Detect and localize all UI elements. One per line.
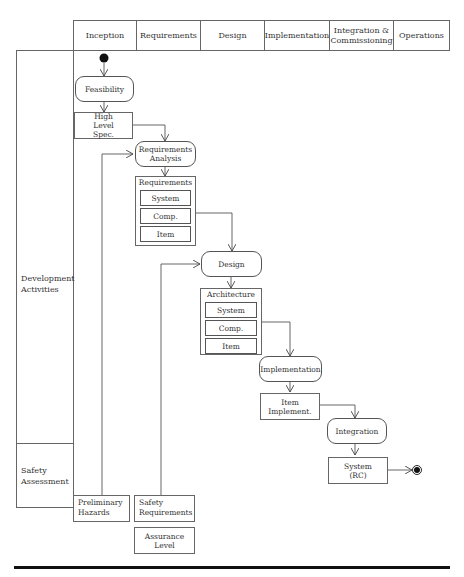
phase-label: Inception	[86, 31, 124, 41]
phase-label: Implementation	[265, 31, 329, 41]
activity-label: Implementation	[260, 365, 320, 374]
safety-label: Safety Requirements	[139, 498, 192, 517]
phase-operations: Operations	[393, 20, 450, 51]
artifact-requirements-group: Requirements System Comp. Item	[135, 176, 196, 246]
req-system: System	[140, 190, 191, 206]
phase-inception: Inception	[73, 20, 137, 51]
activity-label: Feasibility	[85, 85, 124, 94]
lane-label-safety: Safety Assessment	[17, 465, 73, 487]
artifact-item-implement: Item Implement.	[260, 393, 320, 420]
artifact-system-rc: System (RC)	[328, 457, 388, 484]
artifact-label: High Level Spec.	[83, 112, 124, 139]
arch-system: System	[205, 302, 257, 318]
artifact-architecture-group: Architecture System Comp. Item	[200, 288, 262, 355]
start-node	[100, 54, 109, 63]
safety-preliminary-hazards: Preliminary Hazards	[73, 495, 130, 522]
arch-comp: Comp.	[205, 320, 257, 336]
safety-requirements: Safety Requirements	[134, 495, 195, 522]
phase-design: Design	[200, 20, 265, 51]
phase-label: Design	[218, 31, 246, 41]
activity-design: Design	[201, 251, 262, 277]
activity-label: Requirements Analysis	[139, 145, 192, 163]
lane-development: Development Activities	[16, 50, 74, 443]
req-item: Item	[140, 226, 191, 242]
phase-label: Integration & Commissioning	[330, 26, 392, 46]
activity-requirements-analysis: Requirements Analysis	[135, 141, 196, 167]
arch-item: Item	[205, 338, 257, 354]
phase-label: Requirements	[140, 31, 197, 41]
safety-label: Preliminary Hazards	[78, 498, 123, 517]
safety-assurance-level: Assurance Level	[134, 527, 195, 554]
phase-requirements: Requirements	[136, 20, 201, 51]
artifact-label: System (RC)	[343, 462, 373, 480]
lane-label-development: Development Activities	[17, 273, 73, 295]
phase-implementation: Implementation	[264, 20, 330, 51]
activity-label: Design	[218, 260, 244, 269]
artifact-high-level-spec: High Level Spec.	[74, 112, 133, 139]
req-comp: Comp.	[140, 208, 191, 224]
phase-label: Operations	[399, 31, 444, 41]
phase-integration: Integration & Commissioning	[329, 20, 394, 51]
end-node	[414, 467, 420, 473]
group-title: Requirements	[136, 178, 195, 188]
artifact-label: Item Implement.	[267, 398, 313, 416]
group-title: Architecture	[201, 290, 261, 300]
activity-implementation: Implementation	[259, 356, 322, 382]
lane-safety: Safety Assessment	[16, 443, 74, 508]
safety-label: Assurance Level	[145, 532, 184, 550]
activity-integration: Integration	[327, 418, 387, 444]
activity-feasibility: Feasibility	[75, 76, 134, 102]
activity-label: Integration	[336, 427, 379, 436]
